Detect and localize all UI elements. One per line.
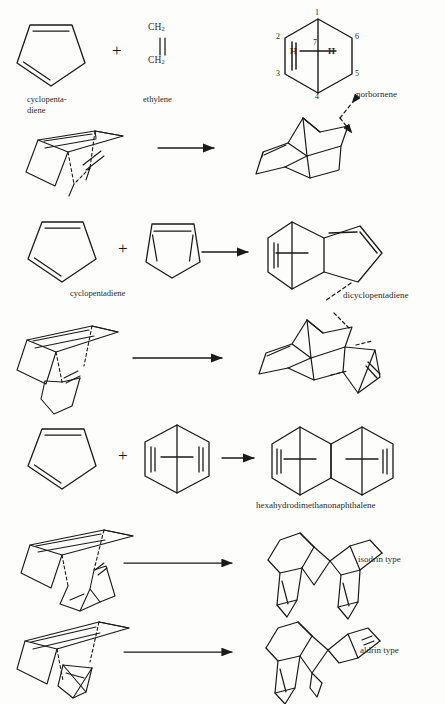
structure-aldrin-3d <box>266 622 380 704</box>
label-ethylene: ethylene <box>143 94 172 104</box>
bridge-atom-h-right: H <box>328 46 335 56</box>
structure-ethylene-r1 <box>160 38 165 55</box>
plus-sign-r2: + <box>118 239 128 258</box>
structure-dicyclopentadiene <box>268 222 382 289</box>
structure-isodrin-3d <box>268 533 382 619</box>
footer-cut-caption <box>268 696 445 704</box>
structure-endo-approach-3d <box>21 530 133 611</box>
ring-number-1: 1 <box>315 8 319 17</box>
structure-hexahydrodimethanonaphthalene <box>272 427 393 495</box>
structure-norbornene-numbered <box>285 19 352 93</box>
ring-number-5: 5 <box>355 69 359 78</box>
label-cyclopentadiene-line1: cyclopenta- <box>27 94 67 104</box>
structure-cpd-ethylene-approach-3d <box>26 131 123 196</box>
ring-number-6: 6 <box>355 32 359 41</box>
ring-number-3: 3 <box>276 69 280 78</box>
label-cyclopentadiene-r2: cyclopentadiene <box>70 288 125 298</box>
structure-cyclopentadiene-r1 <box>17 25 85 86</box>
norbornene-leader-line <box>340 103 352 133</box>
ring-number-7: 7 <box>313 38 317 47</box>
ring-number-2: 2 <box>276 32 280 41</box>
reaction-scheme-canvas: + <box>0 0 445 704</box>
label-hexahydrodimethanonaphthalene: hexahydrodimethanonaphthalene <box>256 500 375 510</box>
plus-sign-r1: + <box>112 41 122 60</box>
structure-cyclopentadiene-r3 <box>28 429 96 489</box>
plus-sign-r3: + <box>118 446 128 465</box>
label-aldrin-type: aldrin type <box>360 645 399 655</box>
structure-exo-approach-3d <box>17 622 129 698</box>
ring-number-4: 4 <box>315 92 319 101</box>
bridge-atom-h-left: H <box>290 46 297 56</box>
label-ethylene-ch2-bottom: CH2 <box>148 55 165 65</box>
structure-cyclopentadiene-r2a <box>28 222 96 282</box>
structure-two-cpd-approach-3d <box>17 326 118 414</box>
label-isodrin-type: isodrin type <box>358 554 401 564</box>
structure-norbornadiene-r3 <box>145 425 209 493</box>
structure-dicyclopentadiene-3d <box>259 313 380 393</box>
label-ethylene-ch2-top: CH2 <box>148 22 165 32</box>
label-cyclopentadiene-line2: diene <box>27 105 45 115</box>
structure-norbornene-3d <box>256 118 348 178</box>
structure-cyclopentadiene-r2b <box>146 224 200 278</box>
label-norbornene: norbornene <box>356 89 397 99</box>
label-dicyclopentadiene: dicyclopentadiene <box>343 290 408 300</box>
